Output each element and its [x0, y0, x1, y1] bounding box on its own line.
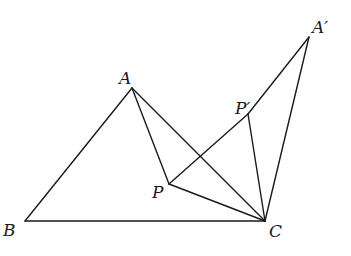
segment-pp-c: [248, 114, 265, 221]
segment-p-pp: [169, 114, 248, 184]
vertex-label-p: P: [151, 182, 164, 202]
segment-p-c: [169, 184, 265, 221]
geometry-figure: ABCPP′A′: [0, 0, 351, 256]
segment-a-p: [132, 88, 169, 184]
vertex-label-b: B: [2, 220, 16, 240]
segment-a-b: [25, 88, 132, 221]
vertex-label-ap: A′: [310, 17, 328, 37]
edges: [25, 37, 309, 221]
vertex-labels: ABCPP′A′: [2, 17, 328, 241]
vertex-label-pp: P′: [234, 98, 250, 118]
vertex-label-c: C: [269, 221, 282, 241]
vertex-label-a: A: [117, 68, 131, 88]
